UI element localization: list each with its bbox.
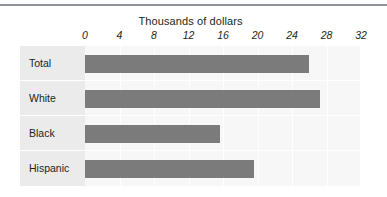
plot-frame: Total White Black Hispanic (20, 46, 361, 186)
bar-black (85, 125, 220, 143)
chart-title: Thousands of dollars (20, 15, 361, 27)
top-divider-rule (0, 4, 387, 6)
x-tick-1: 4 (117, 29, 123, 41)
category-label-hispanic: Hispanic (29, 162, 69, 174)
bar-hispanic (85, 160, 254, 178)
row-divider-1 (20, 80, 361, 81)
x-tick-0: 0 (82, 29, 88, 41)
x-tick-6: 24 (286, 29, 298, 41)
gridline-32 (360, 46, 361, 186)
x-tick-7: 28 (321, 29, 333, 41)
bar-chart-figure: Thousands of dollars 0 4 8 12 16 20 24 2… (0, 0, 387, 197)
x-tick-3: 12 (183, 29, 195, 41)
bar-total (85, 55, 309, 73)
row-divider-3 (20, 150, 361, 151)
x-tick-5: 20 (252, 29, 264, 41)
category-label-total: Total (29, 57, 51, 69)
bar-white (85, 90, 320, 108)
x-axis-tick-labels: 0 4 8 12 16 20 24 28 32 (0, 29, 387, 43)
x-tick-2: 8 (151, 29, 157, 41)
category-label-black: Black (29, 127, 55, 139)
gridline-28 (327, 46, 328, 186)
x-tick-4: 16 (217, 29, 229, 41)
category-label-white: White (29, 92, 56, 104)
x-tick-8: 32 (355, 29, 367, 41)
row-divider-2 (20, 115, 361, 116)
